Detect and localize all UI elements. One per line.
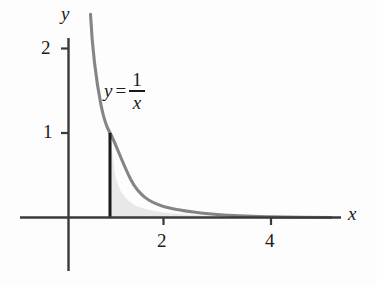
shaded-area-under-curve	[110, 133, 331, 218]
ytick-label-1: 1	[43, 122, 53, 141]
equation-equals-sign: =	[115, 80, 126, 102]
curve-y-equals-one-over-x	[91, 14, 332, 217]
xtick-label-2: 2	[157, 231, 167, 250]
equation-annotation: y = 1 x	[104, 70, 145, 113]
ytick-label-2: 2	[41, 38, 51, 57]
x-axis-label: x	[348, 204, 356, 223]
equation-denominator: x	[130, 93, 144, 112]
equation-numerator: 1	[129, 70, 145, 89]
equation-fraction: 1 x	[129, 70, 145, 113]
y-axis-label: y	[61, 4, 69, 23]
graph-canvas	[0, 0, 377, 286]
xtick-label-4: 4	[265, 231, 275, 250]
equation-lhs: y	[104, 80, 112, 102]
